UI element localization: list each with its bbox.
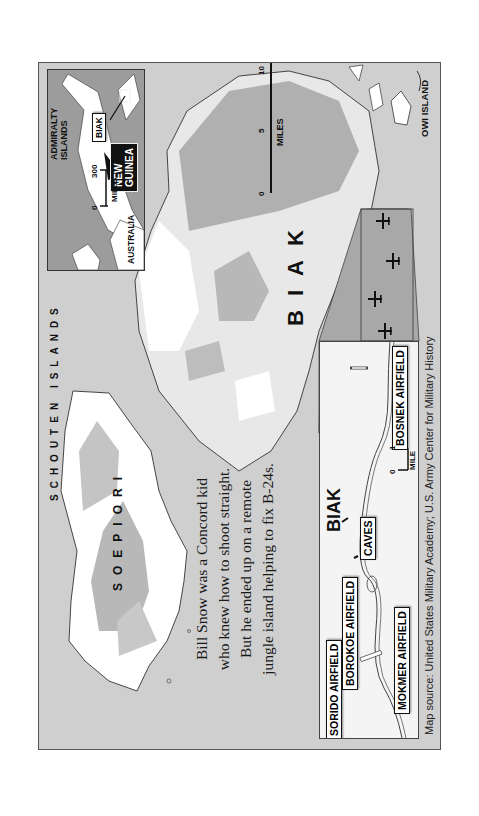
detail-scale-unit: MILE — [408, 451, 417, 470]
inset-label-admiralty-line1: ADMIRALTY — [49, 108, 59, 160]
label-bosnek-airfield: BOSNEK AIRFIELD — [392, 346, 408, 450]
inset-label-new-guinea-line2: GUINEA — [124, 148, 135, 187]
main-scale-tick-10: 10 — [257, 66, 266, 75]
label-mokmer-airfield: MOKMER AIRFIELD — [394, 607, 410, 714]
inset-label-biak: BIAK — [92, 113, 106, 142]
label-borokoe-airfield: BOROKOE AIRFIELD — [342, 577, 358, 690]
owi-island-shape — [391, 91, 411, 125]
inset-scale-tick-300: 300 — [90, 165, 99, 178]
inset-label-australia: AUSTRALIA — [126, 215, 136, 264]
detail-label-biak: BIAK — [324, 488, 345, 532]
main-scale-tick-0: 0 — [257, 192, 266, 196]
pull-quote-line: who knew how to shoot straight. — [213, 449, 235, 689]
label-owi-island: OWI ISLAND — [419, 80, 430, 137]
pull-quote: Bill Snow was a Concord kid who knew how… — [191, 449, 279, 689]
detail-scale-tick-0: 0 — [388, 470, 397, 474]
detail-scale-tick-1: 1 — [388, 446, 397, 450]
map-canvas: SCHOUTEN ISLANDS SOEPIORI BIAK OWI ISLAN… — [39, 63, 441, 750]
label-sorido-airfield: SORIDO AIRFIELD — [326, 640, 342, 739]
pull-quote-line: jungle island helping to fix B-24s. — [257, 449, 279, 689]
inset-label-admiralty-line2: ISLANDS — [59, 120, 69, 160]
label-schouten-islands: SCHOUTEN ISLANDS — [49, 302, 60, 501]
label-caves: CAVES — [360, 517, 376, 560]
label-biak: BIAK — [283, 216, 309, 326]
pull-quote-line: Bill Snow was a Concord kid — [191, 449, 213, 689]
locator-inset-map: ADMIRALTY ISLANDS BIAK NEW GUINEA AUSTRA… — [47, 69, 145, 271]
map-source-caption: Map source: United States Military Acade… — [423, 336, 435, 735]
pull-quote-line: But he ended up on a remote — [235, 449, 257, 689]
inset-label-admiralty: ADMIRALTY ISLANDS — [49, 108, 69, 160]
inset-scale-unit: MILES — [110, 178, 119, 202]
label-soepiori: SOEPIORI — [111, 469, 125, 591]
main-scale-tick-5: 5 — [257, 129, 266, 133]
main-scale-unit: MILES — [275, 118, 285, 146]
detail-inset-map: SORIDO AIRFIELD BOROKOE AIRFIELD MOKMER … — [319, 341, 419, 739]
map-frame: SCHOUTEN ISLANDS SOEPIORI BIAK OWI ISLAN… — [38, 62, 441, 750]
inset-scale-tick-0: 0 — [90, 206, 99, 210]
